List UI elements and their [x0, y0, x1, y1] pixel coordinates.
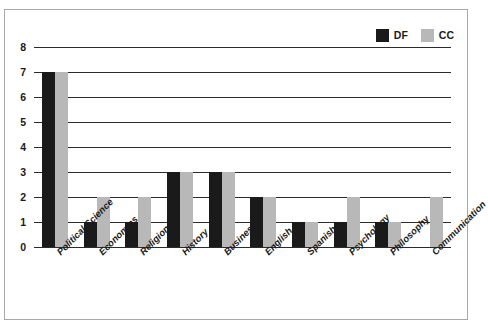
- chart-legend: DF CC: [376, 29, 454, 42]
- x-label-cell: English: [243, 247, 285, 327]
- chart-figure: DF CC 012345678 Political ScienceEconomi…: [4, 9, 468, 320]
- bar-group: [34, 47, 76, 247]
- legend-swatch-df-icon: [376, 29, 389, 42]
- y-axis-tick-7: 7: [20, 67, 26, 78]
- y-axis-tick-2: 2: [20, 192, 26, 203]
- bar-df: [167, 172, 180, 247]
- y-axis-tick-8: 8: [20, 42, 26, 53]
- x-axis-category-labels: Political ScienceEconomicsReligionHistor…: [34, 247, 451, 327]
- bar-df: [334, 222, 347, 247]
- y-axis-tick-1: 1: [20, 217, 26, 228]
- bar-group: [201, 47, 243, 247]
- bar-group: [243, 47, 285, 247]
- legend-label-df: DF: [394, 30, 408, 41]
- x-label-cell: Communication: [409, 247, 451, 327]
- x-label-cell: Psychology: [326, 247, 368, 327]
- bar-df: [42, 72, 55, 247]
- bar-group: [409, 47, 451, 247]
- x-label-cell: Political Science: [34, 247, 76, 327]
- bar-cc: [222, 172, 235, 247]
- x-label-cell: Philosophy: [368, 247, 410, 327]
- legend-swatch-cc-icon: [421, 29, 434, 42]
- x-label-cell: Spanish: [284, 247, 326, 327]
- cut-off-heading-text: · ·: [14, 0, 26, 5]
- legend-item-cc: CC: [421, 29, 454, 42]
- y-axis-tick-4: 4: [20, 142, 26, 153]
- x-label-cell: Business: [201, 247, 243, 327]
- x-label-cell: Economics: [76, 247, 118, 327]
- bar-df: [209, 172, 222, 247]
- bar-cc: [55, 72, 68, 247]
- bar-df: [292, 222, 305, 247]
- bar-group: [284, 47, 326, 247]
- legend-item-df: DF: [376, 29, 408, 42]
- y-axis-tick-labels: 012345678: [5, 47, 32, 247]
- x-label-cell: History: [159, 247, 201, 327]
- y-axis-tick-3: 3: [20, 167, 26, 178]
- bar-group: [326, 47, 368, 247]
- bar-group: [117, 47, 159, 247]
- y-axis-tick-5: 5: [20, 117, 26, 128]
- y-axis-tick-0: 0: [20, 242, 26, 253]
- legend-label-cc: CC: [439, 30, 454, 41]
- y-axis-tick-6: 6: [20, 92, 26, 103]
- bar-group: [159, 47, 201, 247]
- x-label-cell: Religion: [117, 247, 159, 327]
